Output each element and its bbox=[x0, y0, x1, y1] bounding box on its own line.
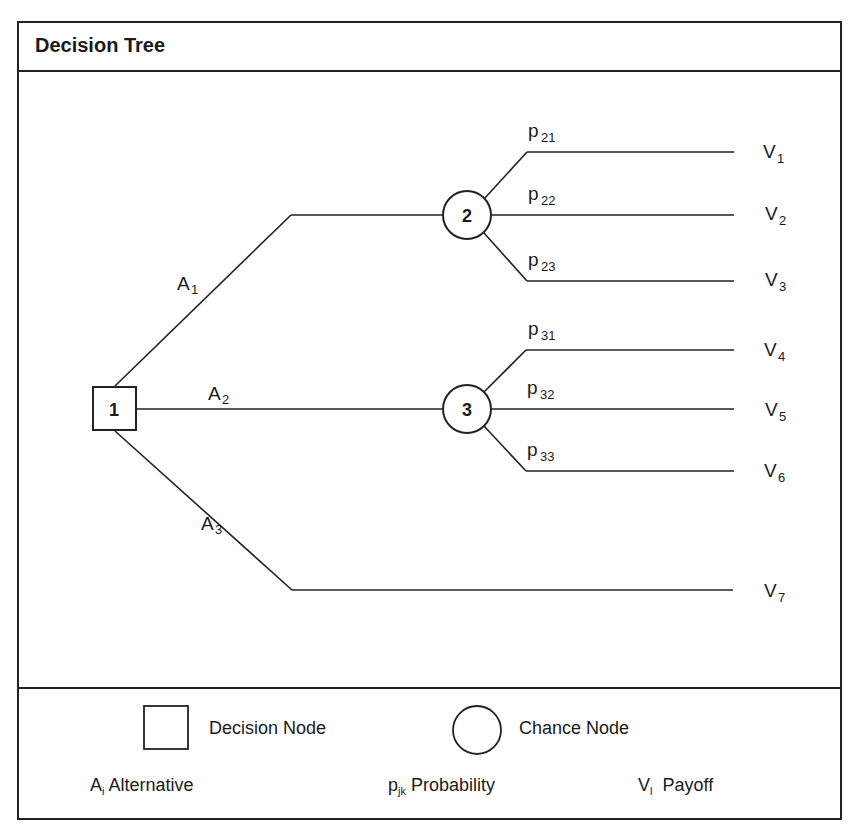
payoff-label-5: V5 bbox=[765, 399, 786, 424]
branch-a3 bbox=[115, 431, 292, 590]
legend-chance-icon bbox=[453, 706, 501, 754]
alt-label-3: A3 bbox=[201, 513, 222, 537]
svg-text:6: 6 bbox=[778, 470, 785, 485]
svg-text:p: p bbox=[528, 249, 539, 270]
svg-text:2: 2 bbox=[779, 213, 786, 228]
svg-text:V: V bbox=[765, 203, 778, 224]
svg-text:1: 1 bbox=[777, 151, 784, 166]
svg-text:p: p bbox=[528, 183, 539, 204]
svg-text:p: p bbox=[527, 377, 538, 398]
svg-text:22: 22 bbox=[541, 193, 555, 208]
prob-label-33: p33 bbox=[527, 439, 554, 464]
svg-text:7: 7 bbox=[778, 590, 785, 605]
svg-text:3: 3 bbox=[215, 522, 222, 537]
prob-label-23: p23 bbox=[528, 249, 555, 274]
branch-a1 bbox=[115, 215, 291, 386]
svg-text:p: p bbox=[528, 318, 539, 339]
prob-label-22: p22 bbox=[528, 183, 555, 208]
chance-node-2-label: 2 bbox=[462, 206, 472, 226]
tree-canvas: 1 2 3 A1 A2 A3 p21 p22 p23 p31 p32 p33 V… bbox=[0, 0, 858, 832]
svg-text:23: 23 bbox=[541, 259, 555, 274]
svg-text:A: A bbox=[177, 273, 190, 294]
svg-text:V: V bbox=[763, 141, 776, 162]
svg-text:V: V bbox=[764, 339, 777, 360]
alt-label-1: A1 bbox=[177, 273, 198, 297]
svg-text:V: V bbox=[765, 399, 778, 420]
svg-text:V: V bbox=[764, 580, 777, 601]
payoff-label-1: V1 bbox=[763, 141, 784, 166]
svg-text:1: 1 bbox=[191, 282, 198, 297]
payoff-label-3: V3 bbox=[765, 269, 786, 294]
prob-label-32: p32 bbox=[527, 377, 554, 402]
svg-text:33: 33 bbox=[540, 449, 554, 464]
svg-text:5: 5 bbox=[779, 409, 786, 424]
svg-text:V: V bbox=[764, 460, 777, 481]
legend-decision-icon bbox=[144, 706, 188, 749]
prob-label-21: p21 bbox=[528, 120, 555, 145]
payoff-label-6: V6 bbox=[764, 460, 785, 485]
svg-text:V: V bbox=[765, 269, 778, 290]
svg-text:p: p bbox=[527, 439, 538, 460]
payoff-label-7: V7 bbox=[764, 580, 785, 605]
svg-text:p: p bbox=[528, 120, 539, 141]
svg-text:31: 31 bbox=[541, 328, 555, 343]
svg-text:2: 2 bbox=[222, 392, 229, 407]
svg-text:A: A bbox=[208, 383, 221, 404]
payoff-label-2: V2 bbox=[765, 203, 786, 228]
legend-probability: pjk Probability bbox=[388, 775, 495, 797]
decision-node-label: 1 bbox=[109, 400, 119, 420]
prob-label-31: p31 bbox=[528, 318, 555, 343]
payoff-label-4: V4 bbox=[764, 339, 785, 364]
svg-text:32: 32 bbox=[540, 387, 554, 402]
svg-text:A: A bbox=[201, 513, 214, 534]
svg-text:4: 4 bbox=[778, 349, 785, 364]
chance-node-3-label: 3 bbox=[462, 400, 472, 420]
legend-chance-label: Chance Node bbox=[519, 718, 629, 739]
alt-label-2: A2 bbox=[208, 383, 229, 407]
legend-alternative: Ai Alternative bbox=[90, 775, 194, 797]
legend-payoff: Vl Payoff bbox=[638, 775, 713, 797]
svg-text:3: 3 bbox=[779, 279, 786, 294]
svg-text:21: 21 bbox=[541, 130, 555, 145]
legend-decision-label: Decision Node bbox=[209, 718, 326, 739]
